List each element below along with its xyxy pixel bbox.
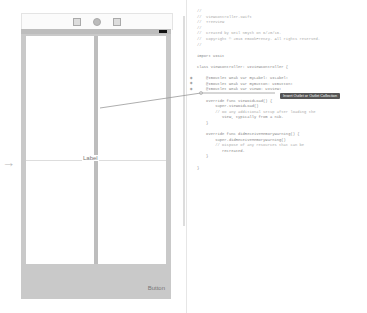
insert-outlet-tooltip: Insert Outlet or Outlet Collection <box>280 93 340 99</box>
connection-drag-line <box>0 0 367 313</box>
